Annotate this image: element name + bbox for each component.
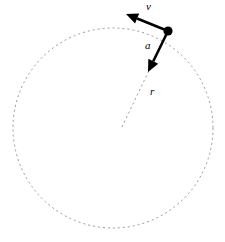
velocity-vector-shaft [137, 19, 168, 31]
circular-path-circle [13, 28, 213, 228]
velocity-label: v [146, 0, 151, 12]
radius-label: r [150, 85, 155, 97]
acceleration-vector [148, 31, 168, 72]
particle-dot [163, 26, 172, 35]
circular-motion-diagram: v a r [0, 0, 225, 242]
acceleration-vector-shaft [153, 31, 168, 61]
velocity-vector [126, 13, 168, 31]
diagram-canvas: v a r [0, 0, 225, 242]
acceleration-label: a [145, 39, 151, 51]
